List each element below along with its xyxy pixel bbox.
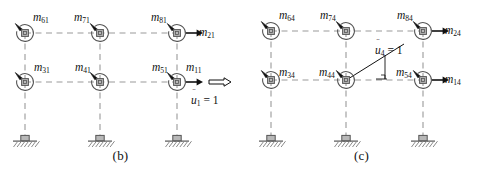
node-top-left-block: [268, 28, 275, 35]
support-mid-block: [342, 135, 350, 141]
node-top-right: [413, 22, 431, 40]
force-label-21: m21: [199, 27, 215, 39]
node-mid-right-block: [420, 77, 427, 84]
moment-label-71: m71: [74, 12, 90, 24]
moment-label-51: m51: [152, 62, 168, 74]
unit-rotation-right-angle: [381, 75, 385, 79]
panel-b-caption: (b): [0, 148, 241, 164]
node-mid-mid-block: [97, 79, 104, 86]
moment-label-34: m34: [279, 67, 295, 79]
support-right-block: [173, 135, 181, 141]
unit-translation-label: u¨1 = 1: [191, 95, 219, 107]
node-top-mid-block: [97, 30, 104, 37]
node-top-right-block: [420, 28, 427, 35]
node-mid-right-block: [174, 79, 181, 86]
node-top-right-block: [174, 30, 181, 37]
moment-label-61: m61: [33, 12, 49, 24]
support-mid: [88, 135, 115, 147]
moment-label-44: m44: [319, 67, 335, 79]
node-mid-right: [167, 73, 185, 91]
figure-root: m61 m71 m81 m21 m31 m41 m51 m11 u¨1 = 1 …: [0, 0, 482, 177]
support-right: [411, 135, 438, 147]
support-left: [259, 135, 286, 147]
moment-label-84: m84: [397, 10, 413, 22]
panel-c: m64 m74 m84 m24 m34 m44 m54 m14 u¨4 = 1 …: [241, 0, 482, 177]
force-mid-right-head: [197, 79, 203, 86]
support-left-block: [267, 135, 275, 141]
unit-rotation-label: u¨4 = 1: [375, 45, 403, 57]
node-mid-right: [413, 71, 431, 89]
moment-label-64: m64: [279, 10, 295, 22]
unit-translation: [209, 78, 231, 86]
support-left: [13, 135, 40, 147]
panel-b: m61 m71 m81 m21 m31 m41 m51 m11 u¨1 = 1 …: [0, 0, 241, 177]
force-label-11: m11: [186, 62, 201, 74]
support-right-block: [419, 135, 427, 141]
node-mid-mid-block: [343, 77, 350, 84]
force-label-14: m14: [445, 74, 461, 86]
moment-label-31: m31: [34, 62, 50, 74]
node-mid-left-block: [268, 77, 275, 84]
node-mid-left-block: [22, 79, 29, 86]
panel-c-caption: (c): [241, 148, 482, 164]
moment-label-54: m54: [396, 67, 412, 79]
node-top-left-block: [22, 30, 29, 37]
moment-label-81: m81: [151, 12, 167, 24]
support-left-block: [21, 135, 29, 141]
force-mid-right: [186, 79, 203, 86]
support-right: [165, 135, 192, 147]
force-label-24: m24: [445, 25, 461, 37]
node-top-mid-block: [343, 28, 350, 35]
node-top-right: [167, 24, 185, 42]
support-mid: [334, 135, 361, 147]
unit-translation-outline: [209, 78, 231, 86]
support-mid-block: [96, 135, 104, 141]
moment-label-74: m74: [320, 10, 336, 22]
moment-label-41: m41: [75, 62, 91, 74]
